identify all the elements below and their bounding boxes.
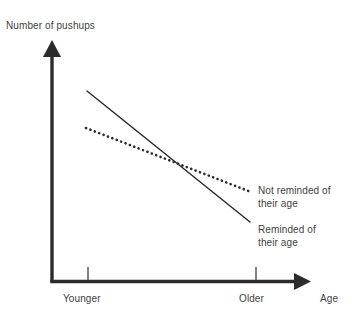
series-label-not-reminded: Not reminded of their age (258, 184, 360, 210)
pushups-vs-age-chart: Number of pushups Age Younger Older Not … (0, 0, 362, 312)
series-line-not-reminded (86, 128, 251, 192)
series-label-reminded-line1: Reminded of (258, 224, 316, 235)
series-label-not-reminded-line2: their age (258, 198, 298, 209)
series-label-not-reminded-line1: Not reminded of (258, 185, 331, 196)
y-axis-arrowhead-icon (43, 40, 61, 57)
x-axis-title: Age (320, 292, 338, 305)
x-tick-label-younger: Younger (63, 292, 101, 305)
x-tick-label-older: Older (239, 292, 264, 305)
chart-plot-area (0, 0, 362, 312)
series-label-reminded-line2: their age (258, 237, 298, 248)
series-line-reminded (87, 91, 250, 222)
y-axis-title: Number of pushups (6, 19, 95, 32)
x-axis-arrowhead-icon (294, 273, 311, 290)
series-label-reminded: Reminded of their age (258, 223, 360, 249)
